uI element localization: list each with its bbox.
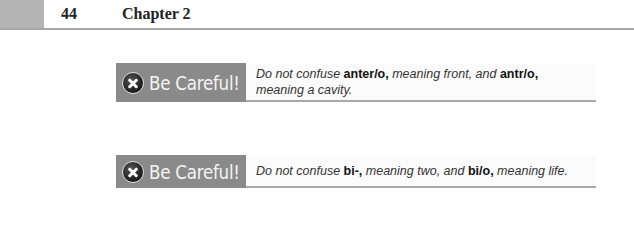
callout-text: Do not confuse anter/o, meaning front, a… [256,66,586,98]
callout-label: Be Careful! [116,155,246,188]
header-gray-block [0,0,44,28]
callout-body: Do not confuse bi-, meaning two, and bi/… [246,155,596,188]
term: antr/o, [500,67,538,81]
callout-label: Be Careful! [116,63,246,102]
be-careful-callout: Be Careful! Do not confuse bi-, meaning … [116,155,596,188]
x-circle-icon [122,72,144,94]
term: anter/o, [344,67,389,81]
callout-text: Do not confuse bi-, meaning two, and bi/… [256,163,568,179]
callout-label-text: Be Careful! [149,161,240,183]
callout-body: Do not confuse anter/o, meaning front, a… [246,63,596,102]
chapter-title: Chapter 2 [122,5,191,23]
callout-label-text: Be Careful! [149,72,240,94]
term: bi-, [344,164,363,178]
term: bi/o, [468,164,494,178]
header-rule [0,28,634,30]
be-careful-callout: Be Careful! Do not confuse anter/o, mean… [116,63,596,102]
page-number: 44 [61,5,77,23]
x-circle-icon [122,161,144,183]
